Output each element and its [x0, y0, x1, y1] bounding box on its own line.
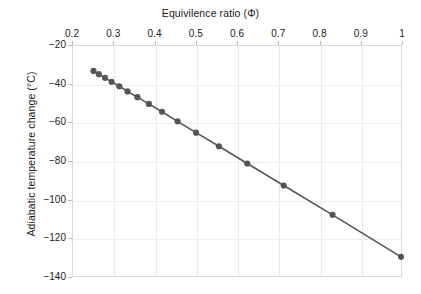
- y-tick-label: −20: [24, 39, 66, 50]
- x-tick-label: 0.4: [135, 28, 175, 39]
- data-point-marker: [216, 143, 222, 149]
- x-tick-label: 0.2: [52, 28, 92, 39]
- data-point-marker: [96, 71, 102, 77]
- plot-area: [72, 45, 402, 277]
- x-axis-title: Equivilence ratio (Φ): [0, 7, 421, 19]
- data-point-marker: [124, 88, 130, 94]
- data-point-marker: [174, 118, 180, 124]
- data-point-marker: [146, 101, 152, 107]
- data-point-marker: [329, 212, 335, 218]
- x-tick-label: 0.7: [258, 28, 298, 39]
- data-point-marker: [90, 68, 96, 74]
- data-point-marker: [159, 109, 165, 115]
- data-point-marker: [281, 182, 287, 188]
- data-series-layer: [73, 46, 401, 276]
- x-tick-label: 0.9: [341, 28, 381, 39]
- y-tick-label: −60: [24, 116, 66, 127]
- x-tick-label: 0.5: [176, 28, 216, 39]
- y-tick-mark: [68, 277, 72, 278]
- x-tick-label: 1: [382, 28, 421, 39]
- data-point-marker: [244, 160, 250, 166]
- chart-figure: Equivilence ratio (Φ) Adiabatic temperat…: [0, 0, 421, 294]
- data-point-marker: [134, 94, 140, 100]
- y-tick-label: −80: [24, 155, 66, 166]
- y-tick-label: −140: [24, 271, 66, 282]
- x-tick-mark: [402, 41, 403, 45]
- data-point-marker: [108, 79, 114, 85]
- data-point-marker: [102, 75, 108, 81]
- data-point-marker: [398, 254, 404, 260]
- y-tick-label: −120: [24, 232, 66, 243]
- x-tick-label: 0.6: [217, 28, 257, 39]
- x-tick-label: 0.8: [300, 28, 340, 39]
- data-point-marker: [116, 83, 122, 89]
- x-tick-label: 0.3: [93, 28, 133, 39]
- series-markers: [90, 68, 404, 260]
- y-tick-label: −40: [24, 78, 66, 89]
- data-point-marker: [193, 130, 199, 136]
- y-tick-label: −100: [24, 194, 66, 205]
